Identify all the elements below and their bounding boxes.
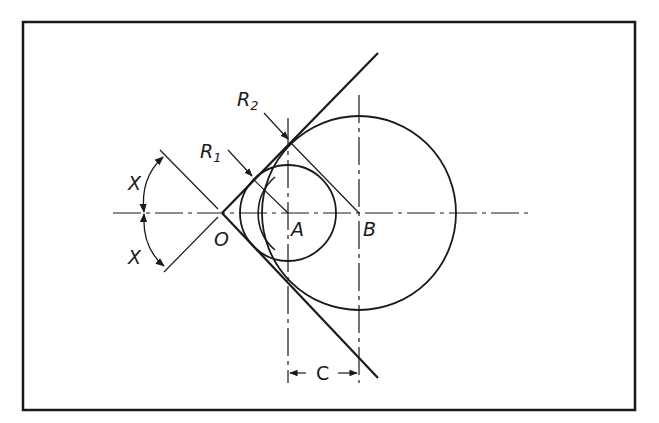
label-r2: R2 [237,88,258,113]
angle-arc-lower [144,214,164,266]
leader-r1 [228,150,252,176]
label-c: C [316,362,329,384]
diagram-canvas: X X O A B R1 R2 C [0,0,659,423]
label-b: B [363,218,376,240]
extension-line-lower [164,217,218,272]
radius-line-2 [290,142,359,213]
leader-r2 [264,113,288,139]
label-r1: R1 [200,140,221,165]
label-x-bottom: X [127,246,142,268]
label-x-top: X [127,172,142,194]
frame-border [23,22,635,410]
angle-arc-upper [143,157,163,212]
label-o: O [214,228,229,250]
label-a: A [289,218,304,240]
